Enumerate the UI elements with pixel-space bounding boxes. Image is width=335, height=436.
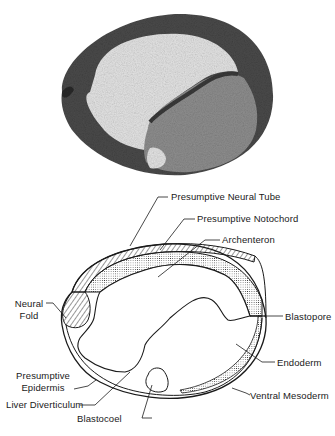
label-liver-diverticulum: Liver Diverticulum bbox=[6, 399, 83, 410]
label-endoderm: Endoderm bbox=[277, 357, 322, 368]
label-neural-fold-line2: Fold bbox=[14, 310, 44, 321]
label-blastocoel: Blastocoel bbox=[77, 413, 122, 424]
label-presumptive-notochord: Presumptive Notochord bbox=[197, 213, 298, 224]
embryo-figure: Presumptive Neural Tube Presumptive Noto… bbox=[0, 0, 335, 436]
label-blastopore: Blastopore bbox=[285, 311, 331, 322]
label-epidermis-line2: Epidermis bbox=[14, 382, 72, 393]
ventral-mesoderm-region bbox=[180, 316, 262, 393]
label-presumptive-neural-tube: Presumptive Neural Tube bbox=[171, 191, 281, 202]
label-ventral-mesoderm: Ventral Mesoderm bbox=[250, 390, 329, 401]
label-epidermis-line1: Presumptive bbox=[14, 370, 72, 381]
blastocoel-cavity bbox=[146, 368, 168, 392]
label-archenteron: Archenteron bbox=[222, 234, 275, 245]
label-neural-fold-line1: Neural bbox=[14, 298, 44, 309]
